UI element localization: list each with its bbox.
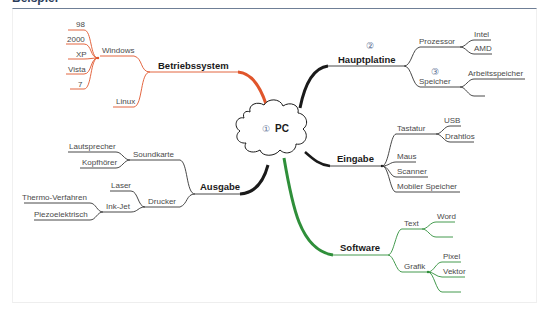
node-mobiler-speicher: Mobiler Speicher	[397, 182, 457, 191]
branch-betriebssystem: Betriebssystem Windows Linux 98 2000 XP …	[66, 20, 266, 107]
node-scanner: Scanner	[397, 167, 427, 176]
node-drucker: Drucker	[148, 197, 176, 206]
branch-ausgabe: Ausgabe Soundkarte Drucker Lautsprecher …	[22, 142, 268, 220]
node-eingabe: Eingabe	[337, 153, 374, 164]
line-text-empty	[422, 229, 453, 237]
line-speicher-empty	[460, 87, 485, 96]
node-win-xp: XP	[76, 50, 87, 59]
node-speicher: Speicher	[419, 77, 451, 86]
node-win-98: 98	[76, 20, 85, 29]
node-ausgabe: Ausgabe	[200, 181, 240, 192]
node-win-vista: Vista	[68, 65, 86, 74]
node-linux: Linux	[116, 97, 135, 106]
node-lautsprecher: Lautsprecher	[69, 142, 116, 151]
node-software: Software	[340, 242, 380, 253]
trunk-eingabe	[305, 152, 330, 166]
node-arbeitsspeicher: Arbeitsspeicher	[468, 69, 523, 78]
line-windows	[100, 56, 150, 72]
marker-3: ③	[431, 67, 439, 77]
node-grafik: Grafik	[404, 262, 426, 271]
node-windows: Windows	[102, 46, 134, 55]
line-prozessor	[404, 47, 460, 66]
marker-1: ①	[262, 124, 270, 134]
center-label: PC	[275, 123, 289, 134]
node-prozessor: Prozessor	[419, 37, 455, 46]
line-maus	[382, 162, 416, 166]
trunk-software	[284, 158, 333, 255]
trunk-hauptplatine	[300, 66, 328, 108]
node-kopfhoerer: Kopfhörer	[82, 158, 117, 167]
node-usb: USB	[444, 116, 460, 125]
branch-software: Software Text Grafik Word Pixel Vektor	[284, 158, 466, 292]
mind-map: Betriebssystem Windows Linux 98 2000 XP …	[0, 0, 544, 309]
node-word: Word	[437, 212, 456, 221]
line-text	[388, 229, 422, 255]
node-soundkarte: Soundkarte	[133, 150, 174, 159]
node-amd: AMD	[474, 44, 492, 53]
trunk-betriebssystem	[238, 72, 266, 104]
node-drahtlos: Drahtlos	[445, 132, 475, 141]
node-laser: Laser	[111, 181, 131, 190]
trunk-ausgabe	[240, 165, 268, 194]
node-tastatur: Tastatur	[397, 124, 426, 133]
node-vektor: Vektor	[443, 267, 466, 276]
node-pixel: Pixel	[443, 252, 461, 261]
node-thermo-verfahren: Thermo-Verfahren	[22, 193, 87, 202]
node-piezoelektrisch: Piezoelektrisch	[34, 210, 88, 219]
center-node: ① PC	[236, 100, 307, 155]
line-soundkarte	[130, 160, 195, 194]
line-arbeitsspeicher	[460, 79, 525, 87]
line-word	[422, 222, 455, 229]
node-maus: Maus	[397, 152, 417, 161]
node-inkjet: Ink-Jet	[106, 202, 131, 211]
node-betriebssystem: Betriebssystem	[158, 60, 229, 71]
node-text: Text	[404, 219, 419, 228]
node-intel: Intel	[474, 30, 489, 39]
node-win-2000: 2000	[67, 35, 85, 44]
cloud-shape	[236, 100, 307, 155]
branch-hauptplatine: ② Hauptplatine Prozessor ③ Speicher Inte…	[300, 30, 525, 108]
branch-eingabe: Eingabe Tastatur Maus Scanner Mobiler Sp…	[305, 116, 475, 192]
line-tastatur	[382, 134, 436, 166]
marker-2: ②	[366, 41, 374, 51]
node-win-7: 7	[78, 80, 83, 89]
node-hauptplatine: Hauptplatine	[338, 54, 396, 65]
